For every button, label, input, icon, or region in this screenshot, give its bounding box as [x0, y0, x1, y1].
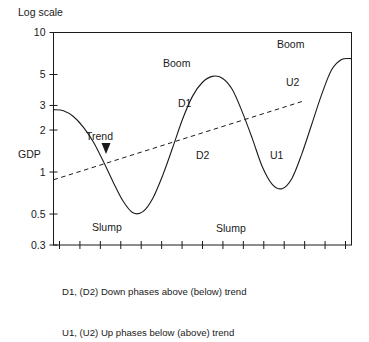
annotation-d1: D1	[178, 97, 192, 109]
y-tick-label: 3	[40, 99, 46, 111]
y-tick-label: 2	[40, 124, 46, 136]
log-scale-label: Log scale	[18, 7, 63, 18]
annotation-boom-2: Boom	[277, 38, 305, 50]
annotation-u1: U1	[270, 149, 284, 161]
figure-caption: D1, (D2) Down phases above (below) trend…	[62, 258, 247, 342]
caption-line-2: U1, (U2) Up phases below (above) trend	[62, 326, 247, 340]
y-tick-label: 1	[40, 166, 46, 178]
caption-line-1: D1, (D2) Down phases above (below) trend	[62, 285, 247, 299]
annotation-u2: U2	[286, 76, 300, 88]
y-tick-label: 0.3	[31, 239, 46, 251]
annotation-slump-2: Slump	[216, 222, 246, 234]
y-tick-label: 10	[34, 26, 46, 38]
annotation-slump-1: Slump	[92, 221, 122, 233]
y-tick-label: 0.5	[31, 208, 46, 220]
annotation-trend: Trend	[86, 130, 113, 142]
annotation-boom-1: Boom	[163, 57, 191, 69]
y-axis-title: GDP	[18, 149, 41, 160]
annotation-d2: D2	[196, 149, 210, 161]
trend-callout-arrow	[102, 143, 111, 154]
y-tick-label: 5	[40, 68, 46, 80]
y-axis-tick-labels: 1053210.50.3	[31, 26, 46, 251]
